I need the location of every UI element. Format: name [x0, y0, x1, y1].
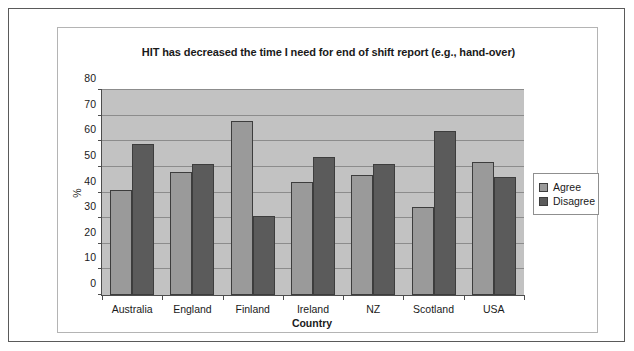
y-tick-label: 60 — [84, 123, 96, 135]
y-axis-title-text: % — [71, 188, 83, 197]
legend-label: Disagree — [553, 195, 595, 207]
x-axis-tick-labels: AustraliaEnglandFinlandIrelandNZScotland… — [102, 303, 524, 315]
bar-group-england — [162, 90, 222, 295]
bar-series-container — [102, 90, 524, 295]
bar-group-australia — [102, 90, 162, 295]
x-tick-label: England — [162, 303, 222, 315]
bar-agree-usa — [472, 162, 494, 295]
legend-item-disagree[interactable]: Disagree — [539, 195, 593, 207]
chart-legend: AgreeDisagree — [533, 173, 599, 215]
x-tick-mark — [223, 295, 224, 300]
legend-swatch-icon — [539, 183, 548, 192]
bar-agree-australia — [110, 190, 132, 295]
chart-container: HIT has decreased the time I need for en… — [57, 27, 598, 333]
y-tick-label: 70 — [84, 98, 96, 110]
x-tick-label: NZ — [343, 303, 403, 315]
y-tick-label: 40 — [84, 175, 96, 187]
legend-label: Agree — [553, 181, 581, 193]
y-tick-label: 30 — [84, 200, 96, 212]
bar-group-finland — [223, 90, 283, 295]
bar-disagree-nz — [373, 164, 395, 295]
x-tick-mark — [162, 295, 163, 300]
bar-agree-scotland — [412, 207, 434, 295]
bar-disagree-scotland — [434, 131, 456, 295]
bar-agree-ireland — [291, 182, 313, 295]
legend-swatch-icon — [539, 197, 548, 206]
x-tick-mark — [102, 295, 103, 300]
x-axis-ticks — [102, 295, 524, 300]
x-tick-label: Scotland — [403, 303, 463, 315]
bar-group-ireland — [283, 90, 343, 295]
bar-agree-nz — [351, 175, 373, 295]
y-tick-label: 50 — [84, 149, 96, 161]
y-tick-label: 80 — [84, 72, 96, 84]
x-axis-title: Country — [101, 317, 523, 329]
legend-item-agree[interactable]: Agree — [539, 181, 593, 193]
bar-disagree-usa — [494, 177, 516, 295]
bar-group-nz — [343, 90, 403, 295]
y-tick-label: 10 — [84, 251, 96, 263]
x-tick-mark — [403, 295, 404, 300]
x-tick-label: Finland — [223, 303, 283, 315]
y-tick-label: 0 — [90, 277, 96, 289]
x-tick-mark — [524, 295, 525, 300]
bar-agree-finland — [231, 121, 253, 295]
x-tick-label: Australia — [102, 303, 162, 315]
x-tick-label: Ireland — [283, 303, 343, 315]
plot-area: 01020304050607080 AustraliaEnglandFinlan… — [101, 90, 524, 296]
x-tick-label: USA — [464, 303, 524, 315]
bar-agree-england — [170, 172, 192, 295]
y-axis-title: % — [72, 90, 81, 295]
bar-group-usa — [464, 90, 524, 295]
bar-disagree-finland — [253, 216, 275, 295]
bar-group-scotland — [403, 90, 463, 295]
y-tick-label: 20 — [84, 226, 96, 238]
bar-disagree-australia — [132, 144, 154, 295]
x-tick-mark — [283, 295, 284, 300]
page-border: HIT has decreased the time I need for en… — [8, 8, 625, 342]
x-tick-mark — [343, 295, 344, 300]
bar-disagree-england — [192, 164, 214, 295]
chart-title: HIT has decreased the time I need for en… — [58, 46, 599, 58]
bar-disagree-ireland — [313, 157, 335, 295]
x-tick-mark — [464, 295, 465, 300]
